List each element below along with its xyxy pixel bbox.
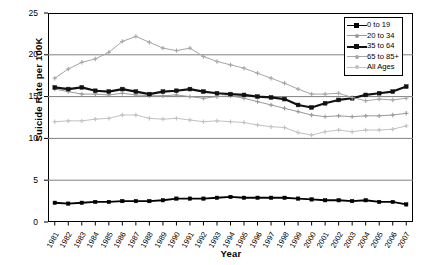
data-point xyxy=(53,201,56,204)
data-point xyxy=(364,199,367,202)
data-point xyxy=(350,199,353,202)
data-point xyxy=(296,197,299,200)
legend-label: All Ages xyxy=(367,62,394,73)
data-point xyxy=(283,97,287,101)
data-point xyxy=(80,86,84,90)
legend-swatch-icon xyxy=(347,20,367,30)
data-point xyxy=(134,199,137,202)
data-point xyxy=(296,103,300,107)
legend-label: 35 to 64 xyxy=(367,41,394,52)
legend-item-0-to-19[interactable]: 0 to 19 xyxy=(347,20,399,31)
data-point xyxy=(323,101,327,105)
legend-swatch-icon xyxy=(347,41,367,51)
data-point xyxy=(188,87,192,91)
legend-label: 0 to 19 xyxy=(367,20,390,31)
data-point xyxy=(121,199,124,202)
data-point xyxy=(107,200,110,203)
data-point xyxy=(323,199,326,202)
data-point xyxy=(107,90,111,94)
y-tick-label: 10 xyxy=(8,133,38,143)
data-point xyxy=(148,199,151,202)
data-point xyxy=(391,90,395,94)
legend-item-65-to-85[interactable]: 65 to 85+ xyxy=(347,52,399,63)
legend-item-35-to-64[interactable]: 35 to 64 xyxy=(347,41,399,52)
data-point xyxy=(67,202,70,205)
data-point xyxy=(283,196,286,199)
legend-item-all-ages[interactable]: All Ages xyxy=(347,62,399,73)
data-point xyxy=(147,92,151,96)
data-point xyxy=(378,200,381,203)
data-point xyxy=(269,196,272,199)
legend-swatch-icon xyxy=(347,62,367,72)
data-point xyxy=(242,196,245,199)
chart-figure: Suicide Rate per 100K Year 0510152025 19… xyxy=(0,0,430,265)
data-point xyxy=(404,85,408,89)
legend-swatch-icon xyxy=(347,31,367,41)
data-point xyxy=(161,90,165,94)
data-point xyxy=(120,87,124,91)
y-tick-label: 15 xyxy=(8,91,38,101)
data-point xyxy=(53,86,57,90)
data-point xyxy=(269,96,273,100)
data-point xyxy=(256,196,259,199)
data-point xyxy=(405,203,408,206)
data-point xyxy=(175,197,178,200)
data-point xyxy=(215,196,218,199)
y-tick-label: 20 xyxy=(8,49,38,59)
data-point xyxy=(80,201,83,204)
legend-label: 65 to 85+ xyxy=(367,52,399,63)
data-point xyxy=(202,90,206,94)
data-point xyxy=(215,91,219,95)
data-point xyxy=(364,93,368,97)
data-point xyxy=(175,89,179,93)
data-point xyxy=(310,198,313,201)
legend-item-20-to-34[interactable]: 20 to 34 xyxy=(347,31,399,42)
data-point xyxy=(161,199,164,202)
data-point xyxy=(229,92,233,96)
x-tick-marks xyxy=(55,222,406,226)
y-tick-label: 5 xyxy=(8,175,38,185)
data-point xyxy=(337,98,341,102)
legend-label: 20 to 34 xyxy=(367,31,394,42)
data-point xyxy=(188,197,191,200)
data-point xyxy=(256,95,260,99)
y-tick-marks xyxy=(44,13,48,222)
data-point xyxy=(66,87,70,91)
data-point xyxy=(337,199,340,202)
series-0-to-19 xyxy=(53,195,408,206)
data-point xyxy=(310,106,314,110)
data-point xyxy=(377,91,381,95)
y-tick-label: 0 xyxy=(8,217,38,227)
data-point xyxy=(229,195,232,198)
data-point xyxy=(134,90,138,94)
legend-swatch-icon xyxy=(347,52,367,62)
data-point xyxy=(242,93,246,97)
data-point xyxy=(391,200,394,203)
data-point xyxy=(94,200,97,203)
data-point xyxy=(202,197,205,200)
data-point xyxy=(93,89,97,93)
chart-legend[interactable]: 0 to 1920 to 3435 to 6465 to 85+All Ages xyxy=(344,17,403,76)
y-tick-label: 25 xyxy=(8,8,38,18)
